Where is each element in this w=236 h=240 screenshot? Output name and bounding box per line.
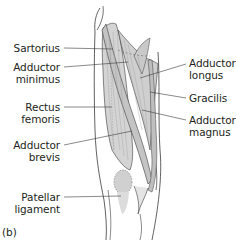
label-sartorius: Sartorius — [14, 42, 60, 54]
label-adductor-longus: Adductor longus — [189, 57, 236, 81]
panel-label: (b) — [2, 226, 17, 238]
label-adductor-brevis: Adductor brevis — [13, 139, 60, 163]
label-adductor-minimus: Adductor minimus — [13, 61, 60, 85]
label-rectus-femoris: Rectus femoris — [21, 101, 60, 125]
label-gracilis: Gracilis — [189, 92, 227, 104]
thigh-muscle-diagram: Sartorius Adductor minimus Rectus femori… — [0, 0, 236, 240]
label-patellar-ligament: Patellar ligament — [14, 191, 60, 215]
label-adductor-magnus: Adductor magnus — [189, 114, 236, 138]
